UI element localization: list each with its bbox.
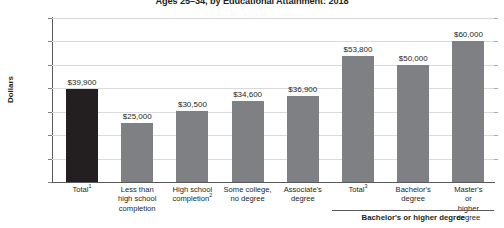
x-axis-category-label-line: completion [118,204,156,213]
bar-value-label: $50,000 [399,54,428,63]
x-axis-category-label: Some college,no degree [224,185,272,204]
y-axis-tick-right [494,88,498,89]
y-axis-title: Dollars [6,60,15,120]
x-axis-category-label: Associate'sdegree [284,185,322,204]
x-axis-category-label-line: Master's or [451,185,487,204]
x-axis-category-label-line: Total1 [72,185,91,194]
x-axis-category-label-line: High school [173,185,213,194]
group-label: Bachelor's or higher degree [362,213,465,222]
bar-value-label: $36,900 [288,85,317,94]
footnote-marker: 3 [365,183,368,189]
y-axis-tick [48,41,52,42]
gridline [52,41,494,42]
bar[interactable] [121,123,153,182]
x-axis-category-label-line: high school [118,194,156,203]
y-axis-tick-right [494,41,498,42]
gridline [52,18,494,19]
bar-value-label: $39,900 [68,78,97,87]
bar-chart: Ages 25–34, by Educational Attainment: 2… [0,0,504,228]
x-axis-category-label-line: degree [396,194,431,203]
y-axis-tick [48,65,52,66]
plot-area: 010,00020,00030,00040,00050,00060,000$70… [52,18,494,182]
y-axis-tick [48,135,52,136]
x-axis-category-label: Less thanhigh schoolcompletion [118,185,156,213]
bar[interactable] [342,56,374,182]
x-axis-category-label-line: Associate's [284,185,322,194]
x-axis-category-label-line: Some college, [224,185,272,194]
bar[interactable] [232,101,264,182]
bar[interactable] [452,41,484,182]
bar[interactable] [176,111,208,182]
footnote-marker: 1 [89,183,92,189]
y-axis-tick-right [494,18,498,19]
footnote-marker: 2 [209,193,212,199]
x-axis-category-label: Bachelor'sdegree [396,185,431,204]
y-axis-tick [48,159,52,160]
y-axis-tick-right [494,135,498,136]
x-axis-category-label-line: Bachelor's [396,185,431,194]
y-axis-tick [48,112,52,113]
bar-value-label: $53,800 [344,45,373,54]
bar-value-label: $60,000 [454,30,483,39]
x-axis-category-label-line: Less than [118,185,156,194]
x-axis-category-label: High schoolcompletion2 [173,185,213,204]
chart-title: Ages 25–34, by Educational Attainment: 2… [0,0,504,6]
bar-value-label: $34,600 [233,90,262,99]
bar[interactable] [287,96,319,182]
bar-value-label: $30,500 [178,100,207,109]
y-axis-tick-right [494,65,498,66]
x-axis-category-label-line: no degree [224,194,272,203]
y-axis-tick-right [494,159,498,160]
y-axis-tick [48,182,52,183]
x-axis-category-label-line: completion2 [173,194,213,203]
y-axis-tick [48,18,52,19]
x-axis-category-label-line: Total3 [348,185,367,194]
group-rule [332,210,494,211]
bar[interactable] [397,65,429,182]
x-axis-category-label: Total3 [348,185,367,194]
bar[interactable] [66,89,98,182]
x-axis-category-label: Total1 [72,185,91,194]
bar-value-label: $25,000 [123,112,152,121]
y-axis-tick [48,88,52,89]
x-axis-category-label-line: degree [284,194,322,203]
y-axis-tick-right [494,112,498,113]
